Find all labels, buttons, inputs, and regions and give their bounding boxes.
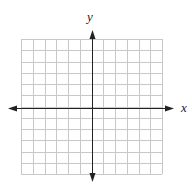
x-axis-left-arrow-icon	[8, 106, 17, 112]
y-axis-label: y	[87, 10, 93, 23]
x-axis-label: x	[181, 101, 187, 114]
axes	[8, 30, 174, 182]
y-axis-down-arrow-icon	[90, 173, 96, 182]
y-axis-up-arrow-icon	[90, 30, 96, 39]
coordinate-plane	[0, 0, 192, 185]
x-axis-right-arrow-icon	[165, 106, 174, 112]
